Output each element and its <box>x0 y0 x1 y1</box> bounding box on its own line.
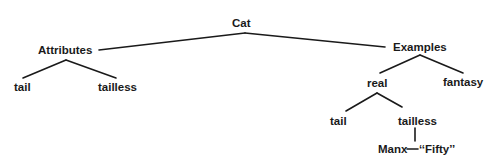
edge-examples-fantasy <box>420 55 463 73</box>
edge-attributes-tailless <box>66 60 116 78</box>
node-real-tail: tail <box>330 115 347 128</box>
edge-cat-attributes <box>99 33 245 50</box>
node-fifty: ‘‘Fifty’’ <box>419 143 455 156</box>
node-cat: Cat <box>232 17 251 30</box>
node-examples: Examples <box>393 41 447 54</box>
node-real: real <box>367 77 387 90</box>
edge-real-tail <box>346 93 377 111</box>
node-attributes-tail: tail <box>14 81 31 94</box>
edge-attributes-tail <box>23 60 66 78</box>
node-real-tailless: tailless <box>398 115 437 128</box>
node-attributes: Attributes <box>38 44 92 57</box>
node-fantasy: fantasy <box>443 76 483 89</box>
tree-diagram: Cat Attributes tail tailless Examples re… <box>0 0 495 163</box>
node-attributes-tailless: tailless <box>98 81 137 94</box>
edge-examples-real <box>380 55 420 73</box>
edge-real-tailless <box>377 93 402 107</box>
edge-cat-examples <box>245 33 385 47</box>
node-manx: Manx <box>378 143 407 156</box>
